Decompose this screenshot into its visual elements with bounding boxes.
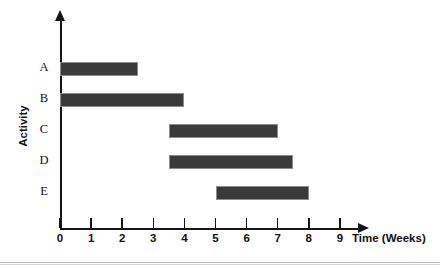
- x-tick-label-5: 5: [204, 232, 228, 244]
- x-axis-line: [60, 228, 360, 230]
- x-tick-9: [339, 218, 341, 228]
- x-tick-label-4: 4: [172, 232, 196, 244]
- gantt-chart: Activity Time (Weeks) 0123456789 ABCDE: [0, 0, 440, 269]
- gantt-bar-c: [169, 124, 278, 138]
- activity-label-e: E: [36, 184, 52, 199]
- x-tick-label-0: 0: [48, 232, 72, 244]
- y-axis-line: [60, 18, 62, 229]
- x-tick-0: [59, 218, 61, 228]
- x-tick-label-9: 9: [328, 232, 352, 244]
- gantt-bar-d: [169, 155, 293, 169]
- x-tick-5: [215, 218, 217, 228]
- x-tick-label-2: 2: [110, 232, 134, 244]
- x-tick-8: [308, 218, 310, 228]
- x-tick-4: [184, 218, 186, 228]
- activity-label-d: D: [36, 153, 52, 168]
- activity-label-c: C: [36, 122, 52, 137]
- x-tick-label-8: 8: [297, 232, 321, 244]
- x-tick-label-6: 6: [235, 232, 259, 244]
- x-tick-2: [121, 218, 123, 228]
- x-tick-label-1: 1: [79, 232, 103, 244]
- x-tick-label-3: 3: [141, 232, 165, 244]
- activity-label-b: B: [36, 91, 52, 106]
- y-axis-arrowhead: [55, 10, 65, 21]
- y-axis-title: Activity: [17, 81, 29, 171]
- x-tick-label-7: 7: [266, 232, 290, 244]
- gantt-bar-e: [216, 186, 309, 200]
- x-tick-7: [277, 218, 279, 228]
- x-axis-title: Time (Weeks): [352, 232, 426, 244]
- gantt-bar-b: [60, 93, 184, 107]
- x-tick-3: [153, 218, 155, 228]
- x-tick-6: [246, 218, 248, 228]
- x-tick-1: [90, 218, 92, 228]
- activity-label-a: A: [36, 60, 52, 75]
- page-divider: [0, 262, 440, 263]
- gantt-bar-a: [60, 62, 138, 76]
- page-divider-shadow: [0, 264, 440, 265]
